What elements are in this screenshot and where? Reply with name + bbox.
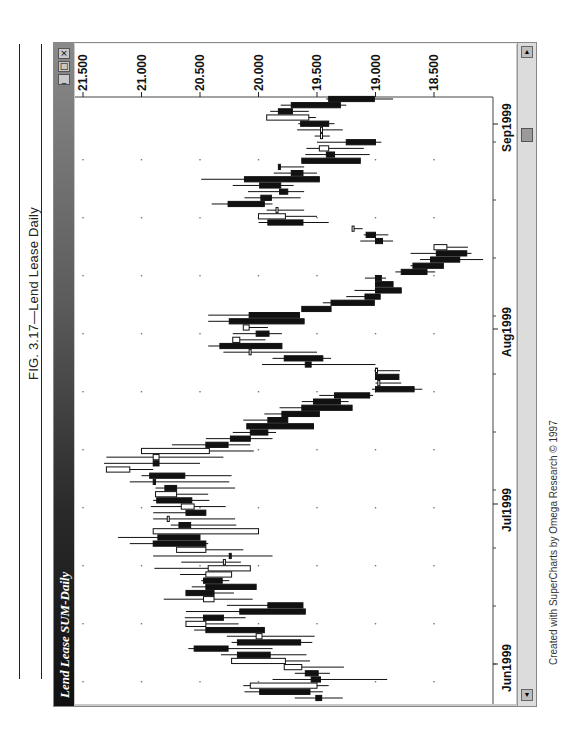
candle-body-up (208, 566, 250, 571)
candle-body-down (237, 640, 300, 645)
grid-dot (316, 275, 317, 276)
candle-body-down (284, 356, 323, 361)
candle-body-down (305, 362, 311, 367)
candle-body-down (376, 282, 394, 287)
grid-dot (258, 565, 259, 566)
grid-dot (433, 449, 434, 450)
grid-dot (316, 565, 317, 566)
grid-dot (82, 449, 83, 450)
grid-dot (316, 449, 317, 450)
candle-body-up (106, 467, 129, 472)
candle-body-down (194, 646, 228, 651)
grid-dot (375, 449, 376, 450)
grid-dot (258, 159, 259, 160)
grid-dot (141, 333, 142, 334)
chart-window: × □ _ Lend Lease SUM-Daily 21.50021.0002… (53, 42, 537, 707)
grid-dot (258, 275, 259, 276)
grid-dot (199, 333, 200, 334)
grid-dot (82, 623, 83, 624)
month-label: Jun1999 (500, 644, 514, 692)
candle-body-down (206, 584, 256, 589)
grid-dot (433, 391, 434, 392)
grid-dot (82, 565, 83, 566)
close-button[interactable]: × (58, 48, 70, 59)
vertical-scrollbar[interactable]: ▲ ▼ (517, 43, 536, 706)
minimize-button[interactable]: _ (58, 74, 70, 85)
candle-body-down (346, 140, 375, 145)
chart-plot-area[interactable]: 21.50021.00020.50020.00019.50019.00018.5… (75, 44, 516, 704)
candle-body-up (321, 133, 323, 138)
candle-body-up (167, 516, 169, 521)
candle-body-down (153, 541, 206, 546)
candle-body-down (335, 393, 370, 398)
candle-body-down (157, 498, 192, 503)
candle-body-up (204, 597, 215, 602)
month-label: Sep1999 (500, 103, 514, 152)
grid-dot (375, 333, 376, 334)
grid-dot (82, 159, 83, 160)
candle-body-down (153, 479, 155, 484)
candle-body-up (233, 337, 240, 342)
scroll-thumb[interactable] (521, 128, 533, 142)
candle-body-up (321, 127, 323, 132)
candle-body-up (177, 547, 206, 552)
candle-body-down (229, 553, 231, 558)
window-titlebar[interactable]: × □ _ Lend Lease SUM-Daily (54, 43, 74, 706)
candle-body-down (240, 609, 306, 614)
candle-body-down (249, 313, 299, 318)
scroll-up-button[interactable]: ▲ (521, 46, 533, 58)
candle-body-down (237, 652, 270, 657)
candle-body-down (302, 306, 331, 311)
grid-dot (82, 507, 83, 508)
grid-dot (141, 681, 142, 682)
candle-body-up (153, 529, 258, 534)
grid-dot (433, 275, 434, 276)
candle-body-up (378, 380, 380, 385)
grid-dot (258, 681, 259, 682)
grid-dot (141, 623, 142, 624)
candle-body-down (316, 695, 322, 700)
candle-body-down (268, 418, 288, 423)
grid-dot (199, 507, 200, 508)
candle-body-up (232, 658, 286, 663)
grid-dot (82, 391, 83, 392)
grid-dot (258, 623, 259, 624)
candle-body-down (291, 171, 303, 176)
grid-dot (199, 681, 200, 682)
scroll-down-button[interactable]: ▼ (521, 689, 533, 701)
candle-body-up (352, 226, 354, 231)
month-label: Jul1999 (500, 488, 514, 532)
grid-dot (82, 217, 83, 218)
grid-dot (141, 391, 142, 392)
candle-body-down (401, 269, 427, 274)
candle-body-down (206, 627, 265, 632)
candle-body-down (436, 251, 466, 256)
candle-body-down (261, 195, 272, 200)
price-tick-label: 18.500 (427, 54, 441, 91)
candle-body-down (430, 257, 459, 262)
grid-dot (316, 623, 317, 624)
candle-body-down (204, 578, 223, 583)
candle-body-down (302, 405, 352, 410)
maximize-button[interactable]: □ (58, 61, 70, 72)
candle-body-up (376, 368, 378, 373)
candle-body-down (326, 152, 334, 157)
grid-dot (316, 391, 317, 392)
credit-text: Created with SuperCharts by Omega Resear… (548, 420, 559, 665)
grid-dot (199, 217, 200, 218)
price-tick-label: 19.500 (310, 54, 324, 91)
grid-dot (375, 565, 376, 566)
candle-body-up (276, 208, 278, 213)
candle-body-up (256, 634, 262, 639)
candle-body-up (249, 350, 251, 355)
candle-body-down (291, 103, 340, 108)
grid-dot (82, 681, 83, 682)
candle-body-up (186, 621, 206, 626)
candle-body-up (156, 492, 177, 497)
candle-body-up (434, 245, 447, 250)
candle-body-down (153, 461, 159, 466)
candle-body-down (268, 220, 303, 225)
grid-dot (375, 217, 376, 218)
candle-body-down (247, 424, 314, 429)
grid-dot (316, 507, 317, 508)
